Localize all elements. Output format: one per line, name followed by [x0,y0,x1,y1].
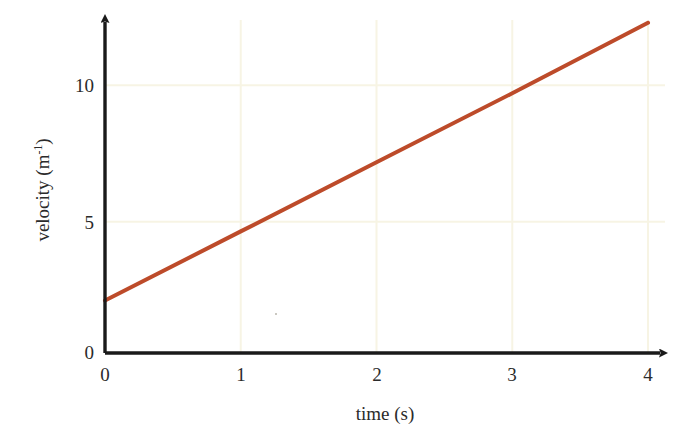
x-tick-label-3: 3 [507,365,517,384]
y-tick-label-0: 0 [64,343,94,362]
grid-lines-vertical [241,20,648,353]
x-tick-label-1: 1 [236,365,246,384]
scan-speck [275,313,277,315]
y-axis-title-exponent: -1 [32,145,45,155]
y-tick-label-10: 10 [64,76,94,95]
x-tick-label-0: 0 [100,365,110,384]
grid-lines-horizontal [105,85,665,222]
y-tick-label-5: 5 [64,213,94,232]
x-tick-label-4: 4 [643,365,653,384]
y-axis-title-tail: ) [32,138,53,144]
x-axis-title: time (s) [356,404,415,423]
y-axis-title: velocity (m-1) [33,138,52,241]
chart-figure: 10 5 0 0 1 2 3 4 time (s) velocity (m-1) [0,0,681,441]
y-axis-title-main: velocity (m [32,155,53,242]
x-tick-label-2: 2 [372,365,382,384]
